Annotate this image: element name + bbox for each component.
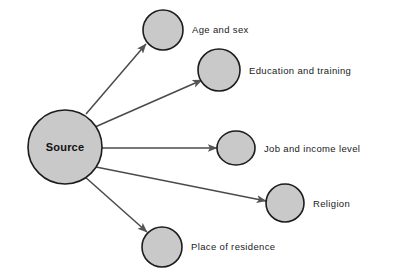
edge-to-education-and-training bbox=[95, 80, 202, 127]
node-circle-job-and-income-level[interactable] bbox=[217, 131, 255, 165]
node-circle-age-and-sex[interactable] bbox=[143, 10, 183, 50]
node-label-education-and-training: Education and training bbox=[249, 65, 351, 76]
diagram-svg: Age and sexEducation and trainingJob and… bbox=[0, 0, 393, 278]
edge-to-place-of-residence bbox=[84, 176, 147, 232]
node-circle-place-of-residence[interactable] bbox=[142, 227, 182, 267]
node-place-of-residence[interactable]: Place of residence bbox=[142, 227, 275, 267]
node-job-and-income-level[interactable]: Job and income level bbox=[217, 131, 360, 165]
diagram-canvas: Age and sexEducation and trainingJob and… bbox=[0, 0, 393, 278]
node-education-and-training[interactable]: Education and training bbox=[198, 49, 351, 91]
node-label-job-and-income-level: Job and income level bbox=[264, 143, 360, 154]
nodes-layer: Age and sexEducation and trainingJob and… bbox=[142, 10, 360, 267]
node-circle-religion[interactable] bbox=[266, 184, 304, 222]
edge-to-religion bbox=[96, 167, 266, 201]
node-label-religion: Religion bbox=[313, 198, 350, 209]
node-religion[interactable]: Religion bbox=[266, 184, 350, 222]
node-label-place-of-residence: Place of residence bbox=[191, 241, 275, 252]
node-source[interactable]: Source bbox=[28, 110, 102, 184]
source-node-layer: Source bbox=[28, 110, 102, 184]
node-label-source: Source bbox=[46, 141, 85, 153]
node-label-age-and-sex: Age and sex bbox=[192, 24, 249, 35]
node-age-and-sex[interactable]: Age and sex bbox=[143, 10, 249, 50]
node-circle-education-and-training[interactable] bbox=[198, 49, 240, 91]
edge-to-age-and-sex bbox=[86, 44, 146, 114]
